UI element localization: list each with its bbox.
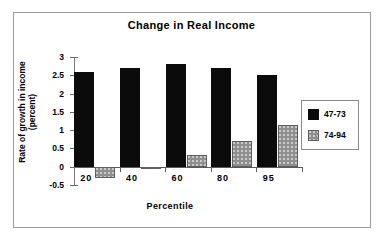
bar-47-73-40 [120, 68, 140, 167]
legend-item-1: 74-94 [308, 129, 346, 141]
chart-legend: 47-73 74-94 [301, 100, 359, 150]
x-axis-tick [256, 167, 257, 172]
y-axis-tick: -0.5 [70, 185, 78, 186]
y-axis-tick-label: 3 [59, 52, 64, 62]
plot-area: 32.521.510.50-0.5 2040608095 [74, 57, 302, 185]
bar-47-73-60 [166, 64, 186, 166]
x-axis-category-label-95: 95 [263, 173, 275, 183]
x-axis-tick [211, 167, 212, 172]
y-axis-tick-label: -0.5 [49, 180, 64, 190]
legend-item-0: 47-73 [308, 108, 346, 120]
y-axis-tick-label: 2 [59, 89, 64, 99]
x-axis-category-label-80: 80 [217, 173, 229, 183]
x-axis-tick [302, 167, 303, 172]
y-axis-tick-label: 0 [59, 162, 64, 172]
y-axis-tick-label: 2.5 [52, 70, 64, 80]
legend-label-0: 47-73 [324, 109, 346, 119]
bar-47-73-80 [211, 68, 231, 167]
y-axis-title: Rate of growth in income (percent) [14, 52, 40, 172]
bar-74-94-95 [278, 125, 298, 167]
x-axis-tick [120, 167, 121, 172]
x-axis-category-label-60: 60 [171, 173, 183, 183]
bar-74-94-80 [232, 141, 252, 167]
x-axis-category-label-20: 20 [80, 173, 92, 183]
legend-label-1: 74-94 [324, 130, 346, 140]
chart-figure: Change in Real Income Rate of growth in … [0, 0, 383, 242]
legend-swatch-icon-1 [308, 130, 319, 141]
y-axis-tick: 3 [70, 57, 78, 58]
legend-swatch-icon-0 [308, 109, 319, 120]
bar-74-94-20 [95, 167, 115, 178]
x-axis-category-label-40: 40 [126, 173, 138, 183]
y-axis-tick-label: 0.5 [52, 143, 64, 153]
bar-47-73-20 [74, 72, 94, 167]
x-axis-tick [165, 167, 166, 172]
y-axis-tick: 0 [70, 167, 78, 168]
y-axis-tick-label: 1 [59, 125, 64, 135]
y-axis-tick-label: 1.5 [52, 107, 64, 117]
y-axis-title-line1: Rate of growth in income [17, 61, 27, 163]
bar-47-73-95 [257, 75, 277, 166]
y-axis-title-line2: (percent) [27, 61, 37, 163]
chart-title: Change in Real Income [0, 19, 383, 31]
bar-74-94-40 [141, 167, 161, 169]
x-axis-title: Percentile [0, 201, 340, 211]
bar-74-94-60 [187, 155, 207, 167]
